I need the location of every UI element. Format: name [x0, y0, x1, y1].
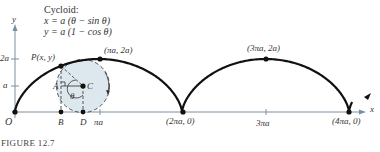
point-B	[59, 110, 64, 115]
label-cusp2: (2πa, 0)	[166, 117, 195, 126]
point-C	[80, 83, 85, 88]
y-tick-label-2a: 2a	[0, 54, 9, 63]
equation-y: y = a (1 − cos θ)	[44, 27, 112, 37]
label-peak2: (3πa, 2a)	[247, 44, 280, 53]
x-tick-label-3pia: 3πa	[256, 119, 270, 128]
label-theta: θ	[70, 92, 74, 101]
y-axis-arrow-icon	[13, 24, 18, 31]
point-cusp2	[180, 109, 185, 114]
equation-x: x = a (θ − sin θ)	[44, 16, 110, 26]
x-axis-arrow-icon	[359, 110, 366, 115]
y-tick-label-a: a	[3, 81, 8, 90]
origin-label: O	[5, 117, 12, 127]
x-axis-label: x	[370, 105, 374, 114]
figure-caption: FIGURE 12.7	[1, 139, 55, 148]
x-tick-label-pia: πa	[94, 118, 103, 127]
y-axis-label: y	[12, 15, 16, 24]
label-D: D	[80, 118, 87, 127]
point-origin	[12, 109, 17, 114]
point-peak2	[263, 56, 268, 61]
label-P: P(x, y)	[31, 53, 55, 62]
label-C: C	[87, 82, 93, 91]
label-B: B	[58, 118, 64, 127]
point-P	[58, 63, 63, 68]
point-peak1	[97, 56, 102, 61]
label-cusp4: (4πa, 0)	[332, 117, 361, 126]
label-A: A	[53, 82, 59, 91]
cycloid-title: Cycloid:	[44, 5, 78, 15]
label-peak1: (πa, 2a)	[104, 46, 133, 55]
curve-end-arrow-icon	[364, 93, 371, 100]
point-cusp4	[346, 109, 351, 114]
point-D	[81, 110, 86, 115]
